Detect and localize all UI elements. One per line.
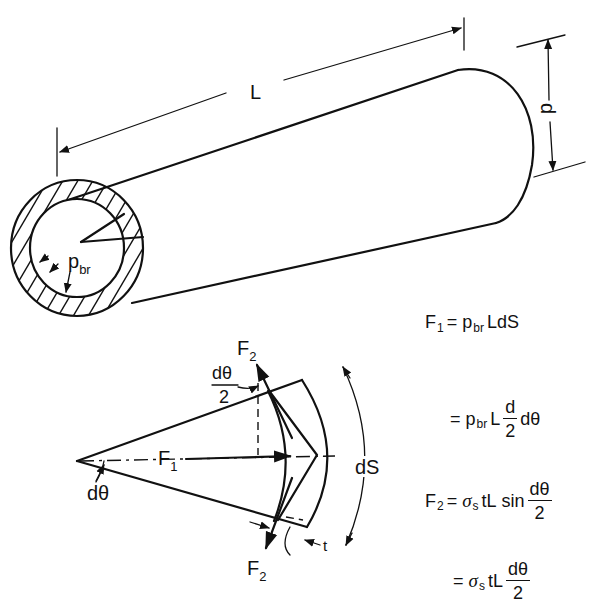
- eq-equals: =: [447, 491, 458, 512]
- length-label: L: [250, 81, 261, 103]
- eq-equals: =: [450, 409, 461, 430]
- force2-top-arrow: [257, 365, 292, 438]
- eq-pressure-sub: br: [473, 321, 484, 335]
- eq-lhs: F: [425, 491, 436, 512]
- arc-length-arrow-top: [343, 367, 350, 378]
- eq-pressure: p: [466, 409, 476, 430]
- eq-fraction: dθ2: [528, 480, 552, 522]
- equation-f2: F2 = σs tL sin dθ2: [425, 480, 555, 522]
- force1-arrow: [186, 456, 290, 459]
- eq-dtheta: dθ: [520, 409, 540, 430]
- eq-tl: tL: [482, 491, 497, 512]
- frac-den: 2: [535, 501, 545, 522]
- eq-sigma-sub: s: [479, 579, 485, 593]
- angle-label: dθ: [87, 482, 109, 504]
- thickness-extension: [285, 527, 290, 555]
- diameter-arrow-up: [548, 40, 549, 100]
- equation-f1: F1 = pbr LdS: [425, 312, 519, 333]
- half-angle-pointer: [238, 386, 258, 388]
- eq-tl: tL: [488, 571, 503, 592]
- eq-lhs-sub: 1: [437, 321, 444, 335]
- eq-pressure-sub: br: [477, 417, 488, 431]
- cylinder-far-end: [458, 69, 533, 223]
- eq-lhs-sub: 2: [437, 499, 444, 513]
- eq-sin: sin: [502, 491, 525, 512]
- equation-f2-approx: = σs tL dθ2: [453, 560, 533, 602]
- frac-num: dθ: [528, 480, 552, 501]
- length-arrow-right: [284, 28, 461, 80]
- diameter-extension-bottom: [534, 162, 585, 177]
- frac-den: 2: [513, 581, 523, 602]
- free-body-diagram: F1 F2 F2 dθ 2 dθ dS t: [77, 337, 379, 584]
- eq-rest: LdS: [487, 312, 519, 333]
- eq-pressure: p: [462, 312, 472, 333]
- half-angle-numerator: dθ: [212, 363, 232, 383]
- inner-bore-circle: [30, 199, 124, 297]
- arc-length-arrow-bottom: [346, 533, 352, 545]
- force2-top-label: F2: [237, 337, 256, 364]
- eq-sigma: σ: [469, 570, 478, 592]
- force1-label: F1: [158, 447, 177, 474]
- half-angle-denominator: 2: [219, 387, 229, 407]
- diameter-arrow-down: [550, 122, 553, 170]
- force2-bottom-label: F2: [247, 557, 266, 584]
- equation-f1-expanded: = pbr L d2 dθ: [450, 398, 540, 440]
- cylinder-drawing: pbr L d: [0, 18, 585, 330]
- arc-length-label: dS: [355, 456, 379, 478]
- force2-bottom-arrow: [266, 478, 292, 548]
- wall-normal-dash: [286, 517, 303, 520]
- eq-fraction: d2: [503, 398, 517, 440]
- length-arrow-left: [60, 93, 226, 152]
- eq-equals: =: [447, 312, 458, 333]
- eq-lhs: F: [425, 312, 436, 333]
- cylinder-top-edge: [68, 70, 458, 200]
- eq-sigma: σ: [462, 490, 471, 512]
- wedge-lower-side: [77, 461, 307, 527]
- eq-fraction: dθ2: [506, 560, 530, 602]
- cylinder-bottom-edge: [132, 223, 496, 303]
- thickness-label: t: [323, 537, 328, 554]
- diameter-extension-top: [517, 35, 565, 47]
- figure-canvas: pbr L d F1 F2 F2: [0, 0, 599, 615]
- thickness-arrow-left: [250, 522, 269, 528]
- thickness-arrow-right: [305, 540, 320, 545]
- eq-length: L: [490, 409, 500, 430]
- diameter-label: d: [537, 103, 559, 114]
- frac-num: d: [503, 398, 517, 419]
- eq-equals: =: [453, 571, 464, 592]
- frac-den: 2: [505, 419, 515, 440]
- frac-num: dθ: [506, 560, 530, 581]
- eq-sigma-sub: s: [473, 499, 479, 513]
